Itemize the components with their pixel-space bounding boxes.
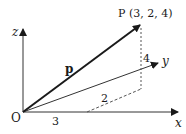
diagram-svg: P (3, 2, 4) p O z y x 3 2 4 bbox=[0, 0, 186, 134]
origin-label: O bbox=[11, 111, 21, 125]
vector-diagram: P (3, 2, 4) p O z y x 3 2 4 bbox=[0, 0, 186, 134]
y-axis bbox=[23, 63, 158, 112]
position-vector-p bbox=[23, 25, 140, 112]
component-x-label: 3 bbox=[52, 115, 59, 128]
vector-label: p bbox=[65, 62, 73, 76]
point-label: P (3, 2, 4) bbox=[118, 7, 172, 20]
z-axis-label: z bbox=[11, 25, 19, 39]
component-z-label: 4 bbox=[143, 52, 150, 65]
projection-base-dashed bbox=[87, 89, 141, 112]
x-axis-label: x bbox=[175, 116, 182, 130]
component-y-label: 2 bbox=[101, 92, 108, 105]
y-axis-label: y bbox=[161, 54, 169, 68]
